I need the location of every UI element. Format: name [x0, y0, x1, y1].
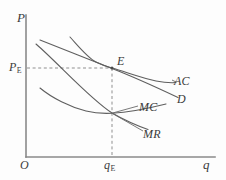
marginal-cost-label: MC	[139, 101, 157, 113]
equilibrium-price-base: P	[9, 60, 17, 74]
mr-label-leader	[112, 113, 143, 131]
equilibrium-point-label: E	[117, 55, 125, 67]
demand-curve	[40, 40, 178, 98]
equilibrium-quantity-label: qE	[104, 159, 115, 171]
diagram-canvas	[0, 0, 226, 180]
equilibrium-price-subscript: E	[17, 66, 22, 75]
marginal-revenue-curve	[36, 44, 148, 130]
y-axis-label: P	[17, 11, 25, 24]
equilibrium-quantity-base: q	[104, 158, 110, 172]
x-axis-label: q	[203, 158, 210, 171]
average-cost-label: AC	[174, 75, 190, 87]
economics-diagram: P PE O qE q E AC D MC MR	[0, 0, 226, 180]
marginal-revenue-label: MR	[143, 128, 161, 140]
equilibrium-point-marker	[111, 67, 114, 70]
origin-label: O	[20, 159, 29, 171]
equilibrium-quantity-subscript: E	[111, 164, 116, 173]
demand-label: D	[177, 93, 186, 105]
equilibrium-price-label: PE	[9, 61, 22, 73]
